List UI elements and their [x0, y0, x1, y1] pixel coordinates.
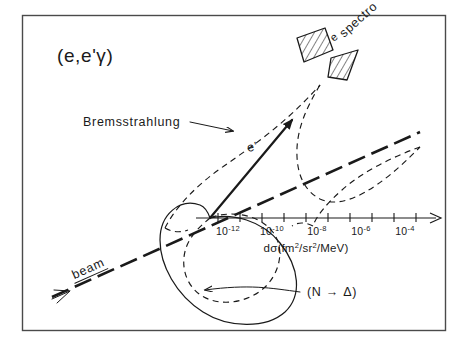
- axis-caption-sep1: /sr: [299, 242, 312, 254]
- tick-mantissa: 10: [307, 225, 319, 237]
- tick-exponent: -6: [364, 224, 371, 233]
- spectrometer-label: spectro: [337, 0, 380, 40]
- bremsstrahlung-left-connector: [165, 228, 188, 232]
- bremsstrahlung-label: Bremsstrahlung: [83, 115, 180, 129]
- axis-tick-label: 10-6: [351, 224, 371, 237]
- axis-caption-prefix: dσ(fm: [264, 242, 295, 254]
- tick-mantissa: 10: [260, 225, 272, 237]
- physics-diagram: (e,e'γ) beam: [0, 0, 463, 348]
- tick-exponent: -8: [320, 224, 327, 233]
- bremsstrahlung-leader: [190, 122, 233, 131]
- beam-label-group: beam: [69, 255, 108, 283]
- axis-tick-label: 10-4: [395, 224, 415, 237]
- tick-mantissa: 10: [395, 225, 407, 237]
- tick-exponent: -10: [272, 224, 284, 233]
- axis-tick-label: 10-12: [216, 224, 240, 237]
- tick-mantissa: 10: [351, 225, 363, 237]
- resonance-label: (N → Δ): [307, 285, 357, 299]
- reaction-title: (e,e'γ): [57, 45, 113, 66]
- axis-tick-label: 10-8: [307, 224, 327, 237]
- bremsstrahlung-right-tail: [313, 147, 420, 226]
- axis-caption: dσ(fm2/sr2/MeV): [264, 241, 349, 254]
- axis-tick-label: 10-10: [260, 224, 284, 237]
- beam-label: beam: [70, 255, 107, 282]
- delta-resonance-lobe: [160, 203, 296, 324]
- scattered-electron-arrow: [210, 120, 292, 218]
- bremsstrahlung-return-branch: [297, 85, 420, 202]
- axis-tick-labels: 10-12 10-10 10-8 10-6 10-4: [216, 224, 415, 237]
- spectrometer-segment-lower: [328, 50, 358, 80]
- tick-exponent: -12: [228, 224, 240, 233]
- axis-caption-sep2: /MeV): [317, 242, 349, 254]
- scattered-electron-label: e': [246, 139, 259, 155]
- cross-section-axis: 10-12 10-10 10-8 10-6 10-4 dσ(fm2/sr2/Me…: [196, 213, 441, 254]
- figure-root: (e,e'γ) beam: [0, 0, 463, 348]
- resonance-leader: [205, 287, 300, 292]
- tick-mantissa: 10: [216, 225, 228, 237]
- tick-exponent: -4: [408, 224, 415, 233]
